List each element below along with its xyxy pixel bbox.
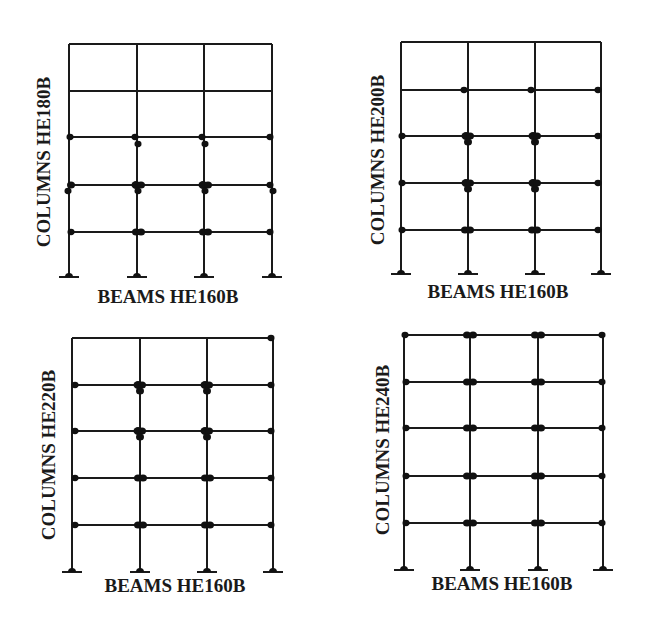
plastic-hinge-icon bbox=[469, 424, 477, 431]
plastic-hinge-icon bbox=[403, 425, 410, 431]
plastic-hinge-icon bbox=[469, 519, 477, 526]
plastic-hinge-icon bbox=[399, 133, 406, 139]
support-pin-icon bbox=[68, 568, 76, 572]
plastic-hinge-icon bbox=[464, 138, 472, 145]
support-pin-icon bbox=[203, 568, 211, 572]
plastic-hinge-icon bbox=[595, 180, 602, 186]
plastic-hinge-icon bbox=[533, 226, 541, 233]
plastic-hinge-icon bbox=[132, 134, 139, 140]
plastic-hinge-icon bbox=[599, 379, 606, 385]
column-section-label: COLUMNS HE200B bbox=[367, 74, 388, 245]
plastic-hinge-icon bbox=[199, 134, 206, 140]
beam-section-label: BEAMS HE160B bbox=[98, 286, 239, 307]
plastic-hinge-icon bbox=[461, 87, 468, 93]
plastic-hinge-icon bbox=[206, 521, 214, 528]
panel-columns-he240b: COLUMNS HE240BBEAMS HE160B bbox=[372, 331, 613, 594]
plastic-hinge-icon bbox=[403, 473, 410, 479]
column-section-label: COLUMNS HE180B bbox=[33, 76, 54, 247]
plastic-hinge-icon bbox=[267, 134, 274, 140]
plastic-hinge-icon bbox=[403, 379, 410, 385]
plastic-hinge-icon bbox=[72, 428, 79, 434]
plastic-hinge-icon bbox=[268, 475, 275, 481]
plastic-hinge-icon bbox=[537, 424, 545, 431]
plastic-hinge-icon bbox=[537, 331, 545, 338]
support-pin-icon bbox=[464, 270, 472, 274]
plastic-hinge-icon bbox=[203, 387, 211, 394]
beam-section-label: BEAMS HE160B bbox=[428, 281, 569, 302]
plastic-hinge-icon bbox=[270, 188, 277, 194]
column-section-label: COLUMNS HE220B bbox=[38, 369, 59, 540]
support-pin-icon bbox=[466, 566, 474, 570]
plastic-hinge-icon bbox=[469, 472, 477, 479]
support-pin-icon bbox=[531, 270, 539, 274]
support-pin-icon bbox=[597, 270, 605, 274]
plastic-hinge-icon bbox=[399, 227, 406, 233]
plastic-hinge-icon bbox=[531, 138, 539, 145]
plastic-hinge-icon bbox=[72, 475, 79, 481]
plastic-hinge-icon bbox=[267, 182, 274, 188]
plastic-hinge-icon bbox=[464, 185, 472, 192]
plastic-hinge-icon bbox=[72, 382, 79, 388]
support-pin-icon bbox=[534, 566, 542, 570]
plastic-hinge-icon bbox=[204, 228, 212, 235]
plastic-hinge-icon bbox=[139, 521, 147, 528]
support-pin-icon bbox=[133, 273, 141, 277]
plastic-hinge-icon bbox=[599, 425, 606, 431]
support-pin-icon bbox=[200, 273, 208, 277]
support-pin-icon bbox=[65, 273, 73, 277]
plastic-hinge-icon bbox=[68, 229, 75, 235]
plastic-hinge-icon bbox=[267, 229, 274, 235]
plastic-hinge-icon bbox=[202, 141, 209, 147]
plastic-hinge-icon bbox=[135, 188, 142, 194]
plastic-hinge-icon bbox=[469, 378, 477, 385]
plastic-hinge-icon bbox=[537, 472, 545, 479]
plastic-hinge-icon bbox=[599, 520, 606, 526]
panel-columns-he200b: COLUMNS HE200BBEAMS HE160B bbox=[367, 42, 611, 302]
support-pin-icon bbox=[400, 566, 408, 570]
beam-section-label: BEAMS HE160B bbox=[432, 573, 573, 594]
plastic-hinge-icon bbox=[399, 180, 406, 186]
plastic-hinge-icon bbox=[268, 382, 275, 388]
plastic-hinge-icon bbox=[402, 332, 409, 338]
plastic-hinge-icon bbox=[139, 474, 147, 481]
plastic-hinge-icon bbox=[204, 181, 212, 188]
plastic-hinge-icon bbox=[268, 428, 275, 434]
plastic-hinge-icon bbox=[137, 228, 145, 235]
plastic-hinge-icon bbox=[469, 331, 477, 338]
plastic-hinge-icon bbox=[72, 522, 79, 528]
support-pin-icon bbox=[397, 270, 405, 274]
plastic-hinge-icon bbox=[136, 387, 144, 394]
plastic-hinge-icon bbox=[531, 185, 539, 192]
column-section-label: COLUMNS HE240B bbox=[372, 364, 393, 535]
plastic-hinge-icon bbox=[595, 87, 602, 93]
panel-columns-he180b: COLUMNS HE180BBEAMS HE160B bbox=[33, 44, 282, 307]
plastic-hinge-icon bbox=[466, 226, 474, 233]
plastic-hinge-icon bbox=[135, 141, 142, 147]
plastic-hinge-icon bbox=[595, 227, 602, 233]
plastic-hinge-icon bbox=[268, 335, 275, 341]
plastic-hinge-icon bbox=[537, 378, 545, 385]
plastic-hinge-icon bbox=[67, 181, 75, 188]
panel-columns-he220b: COLUMNS HE220BBEAMS HE160B bbox=[38, 335, 283, 596]
plastic-hinge-icon bbox=[137, 181, 145, 188]
support-pin-icon bbox=[269, 568, 277, 572]
plastic-hinge-icon bbox=[202, 188, 209, 194]
plastic-hinge-icon bbox=[599, 332, 606, 338]
beam-section-label: BEAMS HE160B bbox=[105, 575, 246, 596]
plastic-hinge-icon bbox=[203, 433, 211, 440]
support-pin-icon bbox=[599, 566, 607, 570]
plastic-hinge-icon bbox=[65, 188, 72, 194]
support-pin-icon bbox=[268, 273, 276, 277]
plastic-hinge-icon bbox=[528, 87, 535, 93]
plastic-hinge-icon bbox=[599, 473, 606, 479]
support-pin-icon bbox=[136, 568, 144, 572]
plastic-hinge-icon bbox=[206, 474, 214, 481]
plastic-hinge-icon bbox=[595, 133, 602, 139]
plastic-hinge-icon bbox=[67, 134, 74, 140]
plastic-hinge-icon bbox=[268, 522, 275, 528]
plastic-hinge-icon bbox=[403, 520, 410, 526]
frame-diagram-figure: COLUMNS HE180BBEAMS HE160B COLUMNS HE200… bbox=[0, 0, 647, 621]
plastic-hinge-icon bbox=[537, 519, 545, 526]
plastic-hinge-icon bbox=[136, 433, 144, 440]
